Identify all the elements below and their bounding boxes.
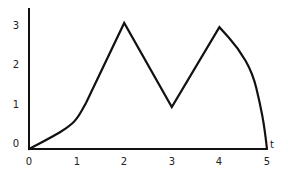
- y-tick-label: 3: [13, 20, 19, 31]
- x-tick-label: 2: [121, 156, 127, 167]
- y-tick-label: 1: [13, 99, 19, 110]
- y-tick-labels: 0 1 2 3: [13, 20, 19, 149]
- y-tick-label: 2: [13, 59, 19, 70]
- line-chart: 0 1 2 3 0 1 2 3 4 5 t: [0, 0, 288, 176]
- x-tick-label: 0: [26, 156, 32, 167]
- y-tick-label: 0: [13, 138, 19, 149]
- x-tick-label: 4: [216, 156, 222, 167]
- x-tick-label: 5: [264, 156, 270, 167]
- chart-canvas: 0 1 2 3 0 1 2 3 4 5 t: [0, 0, 288, 176]
- x-tick-label: 3: [169, 156, 175, 167]
- x-tick-label: 1: [74, 156, 80, 167]
- data-line: [29, 23, 267, 149]
- x-axis-label: t: [270, 139, 274, 150]
- x-tick-labels: 0 1 2 3 4 5: [26, 156, 270, 167]
